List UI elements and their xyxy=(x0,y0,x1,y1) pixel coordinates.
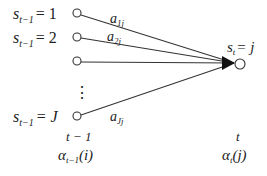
alpha-right: αt(j) xyxy=(222,147,247,165)
label-sj: st= j xyxy=(227,39,254,57)
edge-sJ-to-sj xyxy=(81,63,234,115)
edge-label-a1j: a1j xyxy=(110,11,125,28)
node-s2 xyxy=(73,33,81,41)
edge-s1-to-sj xyxy=(81,15,234,63)
node-s3 xyxy=(73,57,81,65)
label-s1: st−1= 1 xyxy=(13,5,57,25)
alpha-left: αt−1(i) xyxy=(58,147,93,165)
ellipsis: ⋮ xyxy=(74,84,90,101)
node-s1 xyxy=(73,9,81,17)
node-sJ xyxy=(73,112,81,120)
label-s2: st−1= 2 xyxy=(13,29,57,49)
edge-label-a2j: a2j xyxy=(107,29,122,46)
time-label-left: t − 1 xyxy=(66,129,91,144)
edge-s3-to-sj xyxy=(81,62,234,63)
time-label-right: t xyxy=(236,129,240,144)
hmm-forward-diagram: ⋮ st−1= 1 st−1= 2 st−1= J a1j a2j aJj st… xyxy=(0,0,267,176)
label-sJ: st−1= J xyxy=(13,108,59,128)
node-sj xyxy=(235,59,245,69)
edge-s2-to-sj xyxy=(81,38,234,63)
arrowhead-icon xyxy=(222,56,235,70)
edge-label-aJj: aJj xyxy=(110,109,124,126)
